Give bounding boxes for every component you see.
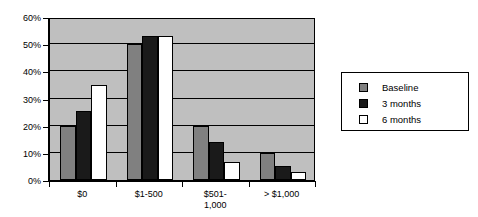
y-axis-tick-mark: [43, 18, 49, 19]
bar: [60, 126, 76, 180]
x-axis-tick-label-line: > $1,000: [242, 189, 322, 200]
y-axis-tick-labels: 0%10%20%30%40%50%60%: [0, 12, 41, 187]
bar: [193, 126, 209, 180]
x-axis-tick-mark: [249, 182, 250, 187]
legend-item: 6 months: [359, 111, 421, 127]
x-axis-tick-mark: [182, 182, 183, 187]
y-axis-tick-label: 60%: [0, 13, 41, 23]
legend-item: 3 months: [359, 95, 421, 111]
y-axis-tick-mark: [43, 154, 49, 155]
black-swatch-icon: [359, 99, 368, 108]
x-axis-tick-mark: [116, 182, 117, 187]
legend-item-label: 6 months: [382, 114, 421, 125]
y-axis-tick-mark: [43, 100, 49, 101]
bar: [142, 36, 158, 180]
bar: [127, 44, 143, 180]
x-axis-tick-label: > $1,000: [242, 189, 322, 200]
plot-area: [49, 18, 315, 181]
bar: [76, 111, 92, 180]
x-axis-tick-mark: [315, 182, 316, 187]
y-axis-tick-label: 10%: [0, 149, 41, 159]
bar-group: [260, 19, 307, 180]
legend: Baseline3 months6 months: [341, 72, 469, 131]
gray-swatch-icon: [359, 83, 368, 92]
bar-group: [60, 19, 107, 180]
bar-group: [193, 19, 240, 180]
legend-item: Baseline: [359, 79, 421, 95]
y-axis-tick-mark: [43, 127, 49, 128]
bar: [224, 162, 240, 180]
y-axis-tick-label: 40%: [0, 67, 41, 77]
x-axis-tick-label-line: 1,000: [175, 200, 255, 211]
legend-item-label: 3 months: [382, 98, 421, 109]
bar: [260, 153, 276, 180]
y-axis-tick-label: 30%: [0, 95, 41, 105]
bar: [275, 166, 291, 180]
y-axis-tick-mark: [43, 45, 49, 46]
y-axis-tick-label: 20%: [0, 122, 41, 132]
bar-chart-figure: 0%10%20%30%40%50%60% $0$1-500$501-1,000>…: [0, 0, 478, 217]
bar: [291, 172, 307, 180]
bar: [158, 36, 174, 180]
bar: [209, 142, 225, 180]
legend-item-label: Baseline: [382, 82, 418, 93]
x-axis-tick-mark: [49, 182, 50, 187]
bar-group: [127, 19, 174, 180]
x-axis-tick-labels: $0$1-500$501-1,000> $1,000: [49, 189, 315, 217]
y-axis-tick-label: 50%: [0, 40, 41, 50]
bar: [91, 85, 107, 180]
bars-layer: [50, 19, 314, 180]
y-axis-tick-label: 0%: [0, 176, 41, 186]
legend-items: Baseline3 months6 months: [359, 79, 421, 127]
y-axis-tick-mark: [43, 72, 49, 73]
white-swatch-icon: [359, 115, 368, 124]
